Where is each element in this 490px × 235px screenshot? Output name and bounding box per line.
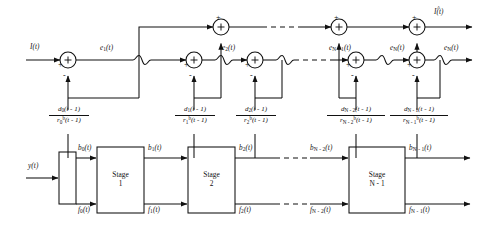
wire-hop-3	[276, 56, 294, 65]
error-label-e1: e1(t)	[100, 45, 113, 53]
summer-2-plus-sign: +	[184, 61, 189, 69]
hat-accent-icon: ^	[437, 5, 440, 12]
y-splitter-box	[59, 152, 76, 204]
signal-label-bN2: bN - 2(t)	[310, 145, 332, 153]
signal-label-f2: f2(t)	[239, 207, 251, 215]
error-label-eN-out: eN(t)	[444, 45, 458, 53]
signal-label-f1: f1(t)	[148, 207, 160, 215]
summer-1-plus-sign: +	[58, 61, 63, 69]
gain-ratio-1: d1(t - 1) r1b(t - 1)	[175, 105, 215, 126]
input-label-y: y(t)	[28, 163, 38, 170]
error-label-eN-inner: eN(t)	[390, 45, 404, 53]
summer-1-minus-sign: -	[63, 72, 66, 80]
signal-label-b2: b2(t)	[239, 145, 253, 153]
wire-hop-2	[215, 56, 233, 65]
top-summer-4-plus-sign: +	[412, 14, 417, 22]
gain-ratio-N2: dN - 2(t - 1) rN - 2b(t - 1)	[327, 105, 385, 126]
summer-3-minus-sign: -	[250, 72, 253, 80]
wire-hop-4	[376, 56, 394, 65]
summer-N-minus-sign: -	[412, 72, 415, 80]
top-summer-1-plus-sign: +	[216, 14, 221, 22]
error-label-e2: e2(t)	[222, 45, 235, 53]
block-diagram-figure: I(t) y(t) ^I(t) e1(t) e2(t) eN - 1(t) eN…	[0, 0, 490, 235]
summer-3-plus-sign: +	[245, 61, 250, 69]
wire-hop-5	[434, 56, 452, 65]
summer-N1-plus-sign: +	[346, 61, 351, 69]
wire-hop-1	[133, 56, 151, 65]
summer-N1-minus-sign: -	[351, 72, 354, 80]
signal-label-f0: f0(t)	[78, 207, 90, 215]
signal-label-fN1: fN - 1(t)	[409, 207, 430, 215]
signal-label-fN2: fN - 2(t)	[310, 207, 331, 215]
gain-ratio-N1: dN - 1(t - 1) rN - 1b(t - 1)	[390, 105, 448, 126]
top-summer-3-plus-sign: +	[334, 14, 339, 22]
signal-label-b1: b1(t)	[148, 145, 162, 153]
summer-2-minus-sign: -	[189, 72, 192, 80]
error-label-eN1: eN - 1(t)	[329, 45, 351, 53]
signal-label-b0: b0(t)	[78, 145, 92, 153]
wire-e1-to-top-sum1	[139, 27, 213, 60]
gain-ratio-0: d0(t - 1) r0b(t - 1)	[49, 105, 89, 126]
input-label-I: I(t)	[30, 44, 40, 51]
output-label-estimate: ^I(t)	[434, 9, 444, 16]
stage-2-label: Stage2	[188, 170, 235, 189]
signal-label-bN1: bN - 1(t)	[409, 145, 431, 153]
gain-ratio-2: d2(t - 1) r2b(t - 1)	[236, 105, 276, 126]
summer-N-plus-sign: +	[407, 61, 412, 69]
stage-N1-label: StageN - 1	[349, 170, 405, 189]
stage-1-label: Stage1	[97, 170, 144, 189]
